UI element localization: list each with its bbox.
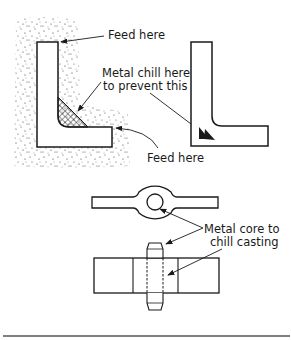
core-label-line1: Metal core to: [204, 222, 280, 236]
chill-label-line1: Metal chill here: [102, 66, 190, 80]
feed-bottom-label: Feed here: [147, 151, 204, 165]
chill-label-line2: to prevent this: [103, 79, 187, 93]
core-hole: [147, 194, 163, 210]
part-top-view: [92, 186, 218, 219]
core-arrow-top: [160, 209, 203, 228]
core-arrow-pin: [166, 228, 203, 244]
casting-chill-diagram: Feed here Metal chill here to prevent th…: [0, 0, 291, 340]
l-casting-with-defect: [191, 42, 268, 146]
core-label-line2: chill casting: [210, 235, 279, 249]
feed-top-label: Feed here: [108, 28, 165, 42]
part-side-view: [94, 243, 219, 310]
